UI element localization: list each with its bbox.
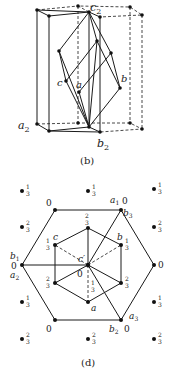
svg-text:3: 3: [158, 301, 162, 308]
svg-text:1: 1: [26, 294, 30, 301]
prism-top-dashed-back: [37, 6, 78, 10]
svg-text:2: 2: [26, 219, 30, 226]
svg-text:1: 1: [158, 181, 162, 188]
svg-text:3: 3: [158, 188, 162, 195]
svg-text:3: 3: [92, 190, 96, 197]
svg-text:1: 1: [125, 237, 129, 244]
label-a3: a3: [129, 311, 138, 322]
inner-chord: [55, 283, 88, 302]
svg-text:0: 0: [158, 260, 164, 270]
svg-text:3: 3: [26, 301, 30, 308]
svg-text:0: 0: [122, 196, 128, 206]
svg-text:3: 3: [158, 226, 162, 233]
caption-d: (d): [81, 357, 95, 368]
svg-text:2: 2: [158, 331, 162, 338]
svg-text:2: 2: [46, 275, 50, 282]
svg-text:3: 3: [26, 226, 30, 233]
dashed-b: [88, 245, 121, 265]
label-a2: a2: [10, 270, 19, 281]
svg-text:0: 0: [124, 324, 130, 334]
label-a1: a1: [110, 195, 119, 206]
svg-text:1: 1: [158, 294, 162, 301]
svg-text:3: 3: [85, 219, 89, 226]
label-b2: b2: [109, 324, 119, 335]
svg-text:1: 1: [91, 279, 95, 286]
label-b1: b1: [10, 251, 20, 262]
svg-text:3: 3: [125, 282, 129, 289]
svg-text:2: 2: [85, 212, 89, 219]
svg-text:0: 0: [46, 198, 52, 208]
svg-text:3: 3: [46, 282, 50, 289]
label-a: a: [91, 303, 96, 313]
caption-b: (b): [80, 155, 94, 166]
svg-text:1: 1: [92, 183, 96, 190]
svg-text:1: 1: [26, 183, 30, 190]
svg-text:3: 3: [26, 338, 30, 345]
crystal-lattice-figure: c2 a2 b2 c a b (b): [0, 0, 179, 369]
svg-text:1: 1: [46, 237, 50, 244]
label-a: a: [76, 79, 82, 90]
svg-text:3: 3: [158, 338, 162, 345]
label-b3: b3: [123, 208, 133, 219]
svg-text:0: 0: [77, 269, 83, 279]
label-b2: b2: [97, 137, 109, 152]
label-b: b: [117, 232, 123, 242]
svg-text:3: 3: [26, 190, 30, 197]
svg-text:2: 2: [158, 219, 162, 226]
svg-text:0: 0: [46, 324, 52, 334]
svg-text:3: 3: [92, 338, 96, 345]
label-a2: a2: [18, 119, 30, 134]
svg-text:2: 2: [26, 331, 30, 338]
svg-text:2: 2: [92, 331, 96, 338]
label-c2: c2: [90, 1, 101, 16]
svg-text:2: 2: [125, 275, 129, 282]
label-c-prime: c′: [78, 254, 85, 264]
svg-text:3: 3: [125, 244, 129, 251]
svg-text:3: 3: [91, 286, 95, 293]
svg-text:3: 3: [46, 244, 50, 251]
figure-d-hexagonal-projection: 13 13 13 23 23 13 13 23 23 23 23 13 13 2…: [10, 181, 164, 368]
figure-b-hexagonal-prism: c2 a2 b2 c a b (b): [18, 1, 144, 166]
label-c: c: [53, 232, 58, 242]
label-b: b: [121, 73, 127, 84]
prism-bottom-edge: [49, 131, 100, 132]
prism-top-edge: [37, 10, 89, 12]
label-c: c: [57, 77, 63, 88]
